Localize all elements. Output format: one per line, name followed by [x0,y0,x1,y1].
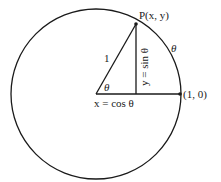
cosine-label: x = cos θ [94,97,134,109]
point-p-label: P(x, y) [139,9,169,22]
point-p-dot [134,22,138,26]
point-one-zero-dot [178,92,182,96]
hypotenuse-label: 1 [104,52,110,64]
arc-angle-label: θ [171,42,177,54]
radius-line [96,24,136,94]
point-one-zero-label: (1, 0) [183,88,207,101]
sine-label: y = sin θ [138,48,150,86]
unit-circle-diagram: P(x, y) 1 θ θ x = cos θ (1, 0) y = sin θ [0,0,221,182]
center-angle-label: θ [104,81,110,93]
